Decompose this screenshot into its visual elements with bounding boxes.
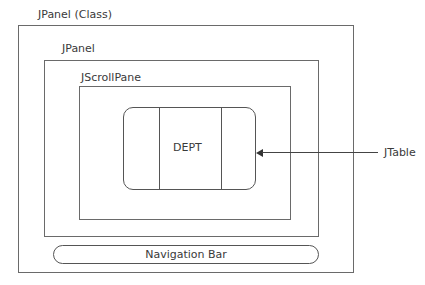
table-column-divider-left <box>159 108 160 189</box>
jtable-callout-arrow <box>262 152 378 153</box>
scroll-pane-label: JScrollPane <box>81 71 141 84</box>
table-column-divider-right <box>221 108 222 189</box>
outer-panel-label: JPanel (Class) <box>38 8 112 21</box>
inner-panel-label: JPanel <box>62 42 95 55</box>
jtable: DEPT <box>123 107 256 190</box>
table-cell-dept: DEPT <box>173 141 202 154</box>
arrow-head-icon <box>256 149 263 157</box>
navigation-bar: Navigation Bar <box>53 245 319 264</box>
navigation-bar-label: Navigation Bar <box>145 248 227 261</box>
jtable-callout-label: JTable <box>384 146 416 159</box>
